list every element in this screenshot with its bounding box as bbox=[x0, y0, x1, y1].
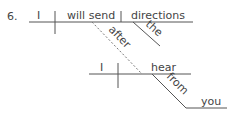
direct-object: directions bbox=[131, 9, 185, 22]
item-number: 6. bbox=[7, 10, 18, 23]
main-subject: I bbox=[37, 9, 40, 22]
prep-object: you bbox=[201, 95, 221, 108]
main-verb: will send bbox=[67, 9, 115, 22]
sub-subject: I bbox=[100, 61, 103, 74]
connector-word: after bbox=[106, 23, 134, 51]
sentence-diagram: 6. I will send directions the after I he… bbox=[0, 0, 227, 119]
